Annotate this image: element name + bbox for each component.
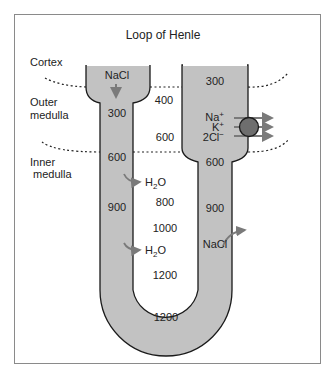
loop-of-henle-diagram: Loop of Henle Cortex Outer medulla Inner…	[0, 0, 327, 375]
ascending-nacl-label: NaCl	[203, 238, 227, 250]
descending-nacl-label: NaCl	[105, 69, 129, 81]
outer-medulla-label-2: medulla	[30, 109, 69, 121]
descending-value: 300	[108, 107, 126, 119]
h2o-label-2: H2O	[145, 244, 166, 259]
inner-medulla-label-1: Inner	[30, 156, 55, 168]
ascending-value: 600	[206, 156, 224, 168]
bend-value: 1200	[154, 311, 178, 323]
inner-medulla-label-2: medulla	[33, 168, 72, 180]
ascending-value: 900	[206, 202, 224, 214]
interstitium-value: 1000	[153, 222, 177, 234]
interstitium-value: 400	[155, 94, 173, 106]
descending-value: 600	[108, 151, 126, 163]
descending-value: 900	[108, 201, 126, 213]
cortex-label: Cortex	[30, 56, 63, 68]
medulla-boundary-line	[42, 142, 100, 152]
interstitium-value: 800	[156, 196, 174, 208]
diagram-title: Loop of Henle	[126, 28, 201, 42]
h2o-label-1: H2O	[145, 176, 166, 191]
interstitium-value: 600	[156, 131, 174, 143]
transporter-icon	[240, 118, 259, 137]
ascending-value: 300	[206, 75, 224, 87]
outer-medulla-label-1: Outer	[30, 96, 58, 108]
cortex-boundary-line	[45, 78, 86, 87]
interstitium-value: 1200	[153, 269, 177, 281]
